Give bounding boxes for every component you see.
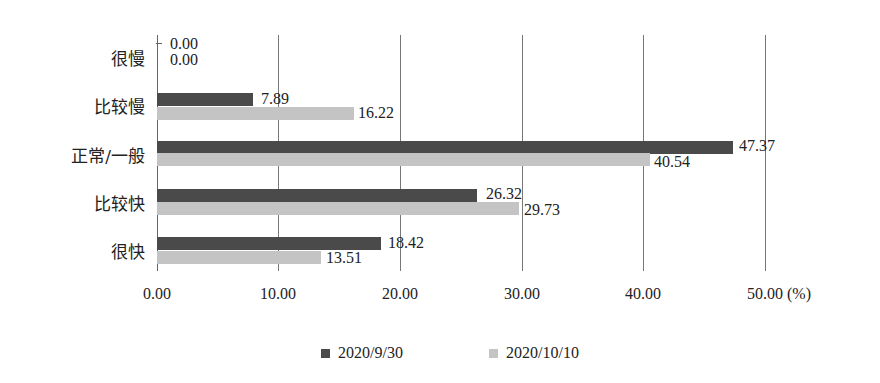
legend-label: 2020/10/10 [506, 344, 579, 362]
zero-tick-mark [156, 43, 162, 44]
bar-slow-s2 [157, 107, 354, 120]
bar-fast-s2 [157, 202, 519, 215]
x-tick-label: 20.00 [382, 285, 418, 303]
x-axis-unit: (%) [787, 285, 811, 303]
category-label: 比较慢 [94, 93, 145, 118]
category-label: 比较快 [94, 190, 145, 215]
data-label: 7.89 [261, 91, 289, 107]
data-label: 29.73 [524, 202, 560, 218]
data-label: 26.32 [486, 186, 522, 202]
bar-slow-s1 [157, 93, 253, 106]
category-label: 很慢 [111, 45, 145, 70]
bar-normal-s2 [157, 153, 650, 166]
data-label: 16.22 [358, 105, 394, 121]
x-tick-label: 40.00 [625, 285, 661, 303]
x-tick-label: 50.00 [747, 285, 783, 303]
legend-swatch-icon [321, 349, 330, 358]
x-tick-label: 10.00 [260, 285, 296, 303]
bar-fast-s1 [157, 189, 477, 202]
data-label: 18.42 [388, 235, 424, 251]
legend-label: 2020/9/30 [338, 344, 403, 362]
data-label: 0.00 [170, 52, 198, 68]
bar-veryfast-s2 [157, 251, 321, 264]
data-label: 47.37 [739, 138, 775, 154]
legend-swatch-icon [489, 349, 498, 358]
x-tick-label: 0.00 [143, 285, 171, 303]
category-label: 很快 [111, 238, 145, 263]
data-label: 13.51 [326, 250, 362, 266]
category-label: 正常/一般 [71, 142, 145, 167]
legend-item-s1: 2020/9/30 [321, 344, 403, 362]
legend-item-s2: 2020/10/10 [489, 344, 579, 362]
data-label: 0.00 [170, 36, 198, 52]
x-tick-label: 30.00 [504, 285, 540, 303]
data-label: 40.54 [654, 154, 690, 170]
